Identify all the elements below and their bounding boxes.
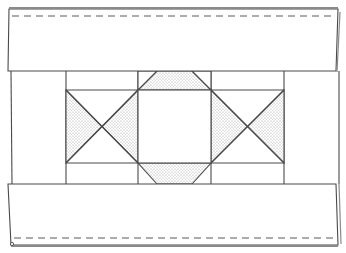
bottom-band-right-shadow [339,184,341,244]
left-block-right-triangle [102,90,138,163]
center-bottom-trapezoid [138,163,211,184]
center-square [138,90,211,163]
left-strip-edge [11,71,12,184]
bottom-band-corner-mark [10,242,13,245]
bottom-band-panel [8,184,338,245]
left-hourglass-block [66,90,138,163]
quilt-diagram [0,0,346,253]
right-hourglass-block [211,90,284,163]
left-block-left-triangle [66,90,102,163]
top-border-band [8,8,340,72]
center-block [138,71,211,184]
right-block-right-triangle [248,90,285,163]
right-block-left-triangle [211,90,248,163]
top-band-panel [8,9,338,71]
bottom-border-band [8,184,341,246]
